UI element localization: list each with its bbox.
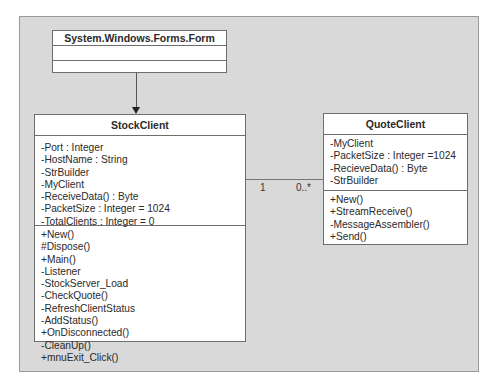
method: -StockServer_Load: [41, 278, 245, 290]
class-name: System.Windows.Forms.Form: [53, 31, 226, 46]
method: +New(): [330, 194, 467, 206]
method: -RefreshClientStatus: [41, 303, 245, 315]
method: -MessageAssembler(): [330, 219, 467, 231]
method: -AddStatus(): [41, 315, 245, 327]
inheritance-line: [136, 73, 137, 108]
attribute: -HostName : String: [41, 154, 245, 166]
method: +Main(): [41, 254, 245, 266]
attribute: -PacketSize : Integer =1024: [330, 150, 467, 162]
method: +mnuExit_Click(): [41, 352, 245, 364]
source-multiplicity: 1: [260, 182, 266, 193]
attribute: -RecieveData() : Byte: [330, 163, 467, 175]
attribute: -StrBuilder: [330, 175, 467, 187]
method: -CheckQuote(): [41, 290, 245, 302]
class-quote-client[interactable]: QuoteClient -MyClient -PacketSize : Inte…: [323, 113, 468, 245]
class-form[interactable]: System.Windows.Forms.Form: [52, 30, 227, 73]
methods-section: +New() +StreamReceive() -MessageAssemble…: [324, 191, 467, 246]
attribute: -ReceiveData() : Byte: [41, 191, 245, 203]
attribute: -MyClient: [330, 138, 467, 150]
attributes-section: -Port : Integer -HostName : String -StrB…: [35, 136, 245, 226]
method: #Dispose(): [41, 241, 245, 253]
method: +StreamReceive(): [330, 206, 467, 218]
method: -CleanUp(): [41, 340, 245, 352]
methods-section: [53, 61, 226, 72]
class-stock-client[interactable]: StockClient -Port : Integer -HostName : …: [34, 114, 246, 342]
attribute: -MyClient: [41, 179, 245, 191]
arrowhead-icon: [132, 107, 140, 114]
class-name: StockClient: [35, 115, 245, 136]
method: +New(): [41, 229, 245, 241]
attribute: -PacketSize : Integer = 1024: [41, 203, 245, 215]
association-line: [246, 179, 323, 180]
method: +Send(): [330, 231, 467, 243]
method: +OnDisconnected(): [41, 327, 245, 339]
attributes-section: -MyClient -PacketSize : Integer =1024 -R…: [324, 135, 467, 191]
attribute: -StrBuilder: [41, 167, 245, 179]
method: -Listener: [41, 266, 245, 278]
target-multiplicity: 0..*: [296, 182, 311, 193]
methods-section: +New() #Dispose() +Main() -Listener -Sto…: [35, 226, 245, 367]
attribute: -Port : Integer: [41, 142, 245, 154]
attributes-section: [53, 46, 226, 61]
class-name: QuoteClient: [324, 114, 467, 135]
